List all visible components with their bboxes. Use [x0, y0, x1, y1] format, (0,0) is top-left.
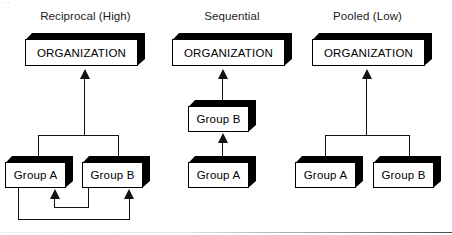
group-label: Group B	[196, 113, 240, 125]
loop-outer-bar-reciprocal	[18, 219, 130, 220]
organization-label: ORGANIZATION	[184, 47, 273, 59]
box-front-face: ORGANIZATION	[25, 39, 138, 66]
connector-bracket-to-organization-reciprocal	[84, 78, 85, 136]
organization-box-pooled[interactable]: ORGANIZATION	[312, 33, 432, 66]
box-front-face: Group B	[82, 162, 143, 188]
group-a-box-sequential[interactable]: Group A	[188, 156, 256, 188]
group-label: Group A	[304, 169, 348, 181]
loop-outer-up-leg-reciprocal	[129, 198, 130, 219]
arrowhead-group-b-to-group-a-reciprocal	[50, 189, 60, 199]
organization-label: ORGANIZATION	[37, 47, 126, 59]
loop-inner-up-leg-reciprocal	[54, 198, 55, 207]
bottom-crop-rule-artifact	[0, 232, 452, 233]
bracket-leg-left-pooled	[325, 135, 326, 157]
group-a-box-pooled[interactable]: Group A	[295, 156, 363, 188]
organization-box-reciprocal[interactable]: ORGANIZATION	[25, 33, 145, 66]
box-front-face: Group A	[295, 162, 356, 188]
panel-title-pooled: Pooled (Low)	[305, 10, 430, 22]
box-front-face: Group B	[188, 106, 249, 132]
group-label: Group A	[197, 169, 241, 181]
bracket-leg-right-reciprocal	[118, 135, 119, 157]
bracket-bar-reciprocal	[38, 135, 119, 136]
arrowhead-group-a-to-group-b-sequential	[218, 133, 228, 143]
loop-inner-down-leg-reciprocal	[88, 188, 89, 208]
box-front-face: ORGANIZATION	[172, 39, 285, 66]
group-label: Group A	[14, 169, 58, 181]
group-b-box-pooled[interactable]: Group B	[373, 156, 441, 188]
group-label: Group B	[381, 169, 425, 181]
panel-title-reciprocal: Reciprocal (High)	[18, 10, 153, 22]
connector-bracket-to-organization-pooled	[366, 78, 367, 136]
box-front-face: Group A	[5, 162, 66, 188]
bracket-leg-left-reciprocal	[38, 135, 39, 157]
box-front-face: Group B	[373, 162, 434, 188]
bracket-leg-right-pooled	[409, 135, 410, 157]
group-b-box-reciprocal[interactable]: Group B	[82, 156, 150, 188]
group-b-box-sequential[interactable]: Group B	[188, 100, 256, 132]
panel-title-sequential: Sequential	[172, 10, 292, 22]
group-label: Group B	[90, 169, 134, 181]
bracket-bar-pooled	[325, 135, 410, 136]
arrowhead-to-organization-reciprocal	[80, 69, 90, 79]
top-cropped-text-artifact: · ·	[0, 0, 452, 4]
box-front-face: ORGANIZATION	[312, 39, 425, 66]
loop-outer-down-leg-reciprocal	[18, 188, 19, 220]
box-front-face: Group A	[188, 162, 249, 188]
organization-label: ORGANIZATION	[324, 47, 413, 59]
group-a-box-reciprocal[interactable]: Group A	[5, 156, 73, 188]
arrowhead-to-organization-pooled	[362, 69, 372, 79]
connector-group-b-to-organization-sequential	[222, 78, 223, 101]
diagram-canvas: · · Reciprocal (High) ORGANIZATION	[0, 0, 452, 235]
arrowhead-group-a-to-group-b-reciprocal	[124, 189, 134, 199]
loop-inner-bar-reciprocal	[54, 207, 89, 208]
organization-box-sequential[interactable]: ORGANIZATION	[172, 33, 292, 66]
arrowhead-group-b-to-organization-sequential	[218, 69, 228, 79]
